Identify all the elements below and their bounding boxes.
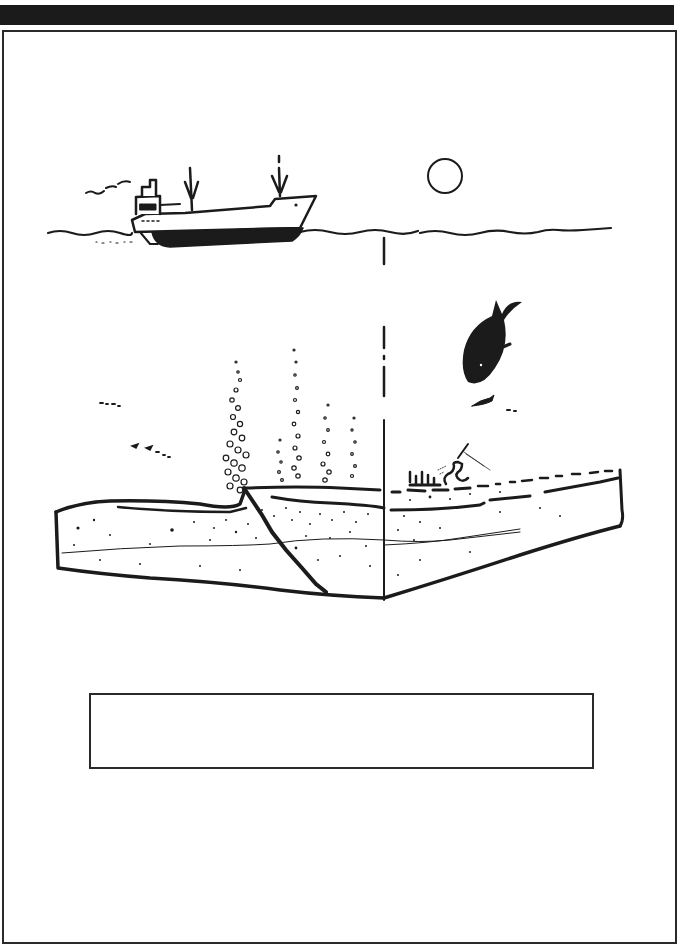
sun-icon (428, 159, 462, 193)
caption-box (89, 693, 594, 769)
benthic-organisms (410, 444, 490, 485)
bubble-plumes (223, 349, 356, 493)
bubble-plume-5 (351, 417, 357, 478)
illustration (0, 0, 680, 947)
bubble-plume-4 (321, 404, 331, 482)
caption-text (91, 695, 592, 767)
whale-icon (463, 300, 522, 383)
seafloor-block (56, 470, 623, 598)
bubble-plume-2 (292, 349, 301, 478)
sea-surface-line (48, 228, 611, 235)
fish-icon (100, 395, 516, 457)
bubble-plume-3 (277, 439, 284, 481)
bubble-plume-main (223, 361, 249, 493)
